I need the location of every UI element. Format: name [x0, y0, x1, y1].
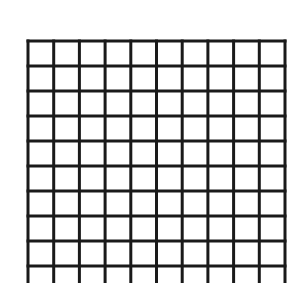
square-grid: [0, 0, 301, 283]
